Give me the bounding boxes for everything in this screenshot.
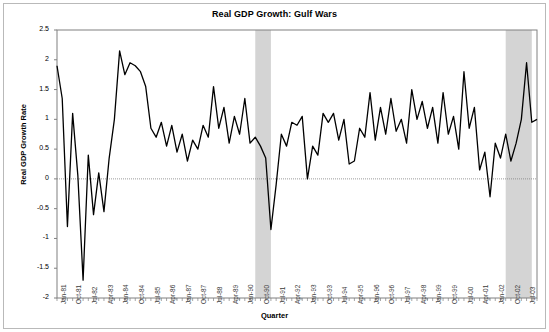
x-tick-label: Jul-91	[279, 287, 286, 304]
x-tick-label: Jan-90	[247, 284, 254, 304]
shaded-bands-group	[255, 30, 532, 298]
x-tick-label: Apr-89	[232, 285, 239, 304]
y-tick-label: -1.5	[23, 263, 49, 270]
x-tick-label: Oct-02	[514, 285, 521, 304]
x-tick-label: Jul-88	[216, 287, 223, 304]
x-tick-label: Jan-81	[60, 284, 67, 304]
x-tick-label: Oct-93	[326, 285, 333, 304]
x-tick-label: Oct-84	[138, 285, 145, 304]
x-tick-label: Oct-99	[451, 285, 458, 304]
x-tick-label: Apr-98	[420, 285, 427, 304]
x-tick-label: Apr-95	[357, 285, 364, 304]
x-tick-label: Jan-96	[373, 284, 380, 304]
x-tick-label: Jul-00	[467, 287, 474, 304]
x-tick-label: Oct-81	[75, 285, 82, 304]
x-axis-title: Quarter	[0, 311, 549, 320]
y-tick-label: -2	[23, 293, 49, 300]
y-tick-label: 2.5	[23, 25, 49, 32]
x-tick-label: Apr-83	[107, 285, 114, 304]
x-tick-label: Jan-99	[435, 284, 442, 304]
x-tick-label: Oct-96	[388, 285, 395, 304]
plot-area	[0, 0, 549, 332]
x-tick-label: Apr-92	[294, 285, 301, 304]
x-tick-label: Jul-85	[154, 287, 161, 304]
x-tick-label: Jul-97	[404, 287, 411, 304]
y-axis-title: Real GDP Growth Rate	[19, 70, 28, 220]
chart-container: Real GDP Growth: Gulf Wars 2.521.510.50-…	[0, 0, 549, 332]
plot-frame	[57, 30, 537, 298]
shaded-band	[255, 30, 271, 298]
x-tick-label: Oct-87	[200, 285, 207, 304]
x-tick-label: Jul-03	[529, 287, 536, 304]
gdp-growth-line	[57, 51, 537, 280]
x-tick-label: Jan-84	[122, 284, 129, 304]
y-tick-label: -1	[23, 233, 49, 240]
x-tick-label: Jan-02	[498, 284, 505, 304]
x-tick-label: Jan-87	[185, 284, 192, 304]
y-tick-label: 2	[23, 55, 49, 62]
x-tick-label: Apr-86	[169, 285, 176, 304]
x-tick-label: Jul-94	[341, 287, 348, 304]
x-tick-label: Apr-01	[482, 285, 489, 304]
x-tick-label: Jan-93	[310, 284, 317, 304]
x-tick-label: Jul-82	[91, 287, 98, 304]
x-tick-label: Oct-90	[263, 285, 270, 304]
